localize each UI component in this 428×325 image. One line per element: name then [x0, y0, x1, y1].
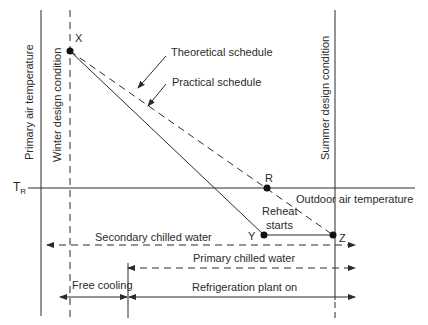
point-r-label: R	[265, 172, 273, 184]
winter-design-label: Winter design condition	[51, 48, 63, 162]
tr-label-sub: R	[20, 187, 26, 196]
free-cooling-label: Free cooling	[72, 279, 133, 291]
reheat-label-line1: Reheat	[262, 205, 297, 217]
summer-design-label: Summer design condition	[319, 36, 331, 160]
point-y-label: Y	[248, 230, 256, 242]
refrigeration-plant-label: Refrigeration plant on	[192, 281, 297, 293]
point-z-label: Z	[339, 232, 346, 244]
point-x-label: X	[75, 32, 83, 44]
y-axis-label: Primary air temperature	[23, 44, 35, 160]
point-x-marker	[67, 48, 74, 55]
point-y-marker	[261, 232, 268, 239]
tr-label: TR	[13, 180, 26, 196]
point-r-marker	[264, 185, 271, 192]
air-temperature-schedule-diagram: X R Y Z Theoretical schedule Practical s…	[0, 0, 428, 325]
theoretical-schedule-label: Theoretical schedule	[171, 46, 273, 58]
secondary-chilled-water-label: Secondary chilled water	[95, 231, 212, 243]
practical-callout-arrow	[148, 84, 166, 106]
theoretical-callout-arrow	[138, 56, 166, 88]
practical-schedule-label: Practical schedule	[172, 76, 261, 88]
point-z-marker	[330, 232, 337, 239]
outdoor-air-temperature-label: Outdoor air temperature	[296, 193, 413, 205]
primary-chilled-water-label: Primary chilled water	[193, 252, 295, 264]
reheat-label-line2: starts	[266, 219, 293, 231]
